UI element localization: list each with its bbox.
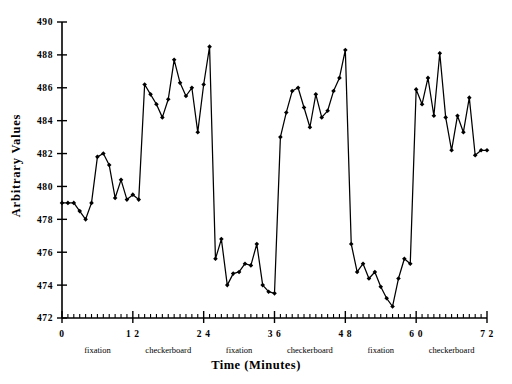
data-point-67: [455, 113, 460, 118]
data-point-37: [278, 135, 283, 140]
data-point-28: [225, 283, 230, 288]
data-point-57: [396, 276, 401, 281]
y-tick-label-484: 484: [37, 116, 53, 126]
data-point-0: [60, 201, 65, 206]
x-tick-label-60: 6 0: [409, 329, 423, 339]
x-tick-label-24: 2 4: [197, 329, 211, 339]
y-tick-label-490: 490: [37, 17, 53, 27]
condition-label-2-fixation: fixation: [226, 345, 253, 355]
data-point-41: [302, 105, 307, 110]
condition-label-5-checkerboard: checkerboard: [429, 345, 476, 355]
chart-canvas: 47247447647848048248448648849001 22 43 6…: [0, 0, 512, 384]
data-point-33: [254, 242, 259, 247]
data-point-49: [349, 242, 354, 247]
data-point-65: [443, 115, 448, 120]
data-point-47: [337, 76, 342, 81]
data-point-42: [308, 125, 313, 130]
data-point-64: [437, 51, 442, 56]
data-point-38: [284, 110, 289, 115]
condition-label-3-checkerboard: checkerboard: [287, 345, 334, 355]
data-point-9: [113, 196, 118, 201]
condition-label-0-fixation: fixation: [84, 345, 111, 355]
data-point-39: [290, 89, 295, 94]
data-point-61: [420, 102, 425, 107]
data-point-26: [213, 257, 218, 262]
y-tick-label-476: 476: [37, 248, 53, 258]
data-point-23: [195, 130, 200, 135]
data-point-19: [172, 58, 177, 63]
data-point-68: [461, 130, 466, 135]
data-point-69: [467, 95, 472, 100]
data-point-62: [426, 76, 431, 81]
data-point-1: [66, 201, 71, 206]
data-point-18: [166, 97, 171, 102]
data-point-63: [432, 113, 437, 118]
condition-label-4-fixation: fixation: [368, 345, 395, 355]
data-point-10: [119, 178, 124, 183]
x-tick-label-0: 0: [59, 329, 64, 339]
y-tick-label-486: 486: [37, 83, 53, 93]
arbitrary-values-time-series-chart: Arbitrary Values 47247447647848048248448…: [0, 0, 512, 384]
y-tick-label-478: 478: [37, 215, 53, 225]
data-point-46: [331, 89, 336, 94]
data-point-43: [314, 92, 319, 97]
data-point-54: [378, 284, 383, 289]
data-point-66: [449, 148, 454, 153]
x-tick-label-36: 3 6: [268, 329, 282, 339]
y-tick-label-488: 488: [37, 50, 53, 60]
y-tick-label-482: 482: [37, 149, 53, 159]
x-axis-title: Time (Minutes): [0, 358, 512, 373]
data-point-17: [160, 115, 165, 120]
data-point-24: [201, 82, 206, 87]
data-point-72: [485, 148, 490, 153]
data-point-60: [414, 87, 419, 92]
condition-label-1-checkerboard: checkerboard: [145, 345, 192, 355]
data-point-25: [207, 44, 212, 49]
data-series-line: [62, 47, 487, 307]
data-point-36: [272, 291, 277, 296]
data-point-48: [343, 48, 348, 53]
y-tick-label-472: 472: [37, 313, 53, 323]
x-tick-label-12: 1 2: [126, 329, 140, 339]
y-tick-label-480: 480: [37, 182, 53, 192]
data-point-5: [89, 201, 94, 206]
data-point-29: [231, 271, 236, 276]
x-tick-label-48: 4 8: [338, 329, 352, 339]
data-point-27: [219, 237, 224, 242]
y-tick-label-474: 474: [37, 281, 53, 291]
data-point-32: [249, 263, 254, 268]
data-point-8: [107, 163, 112, 168]
data-point-20: [178, 81, 183, 86]
x-tick-label-72: 7 2: [480, 329, 494, 339]
